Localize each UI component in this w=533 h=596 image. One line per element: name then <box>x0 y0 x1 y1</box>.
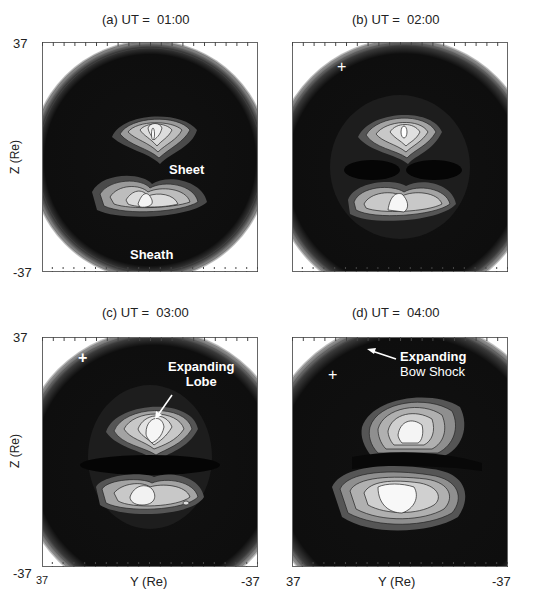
panel-c-ylabel: Z (Re) <box>8 434 22 468</box>
panel-a-title: (a) UT = 01:00 <box>102 12 190 27</box>
panel-c-xlabel: Y (Re) <box>130 574 167 589</box>
panel-c-ymax-label: 37 <box>13 330 27 345</box>
panel-c-title: (c) UT = 03:00 <box>102 305 189 320</box>
plus-marker: + <box>328 367 337 382</box>
sheath-annotation: Sheath <box>130 247 173 262</box>
panel-c-xleft-label: 37 <box>36 574 48 586</box>
expanding-bow-shock-line1: Expanding <box>400 349 466 364</box>
panel-d-plot: + Expanding Bow Shock <box>292 337 508 567</box>
panel-a-ymin-label: -37 <box>13 265 32 280</box>
expanding-bow-shock-line2: Bow Shock <box>400 364 466 379</box>
panel-d-title: (d) UT = 04:00 <box>352 305 440 320</box>
sheet-annotation: Sheet <box>169 162 204 177</box>
panel-b-contour <box>292 42 508 272</box>
panel-a-ylabel: Z (Re) <box>8 140 22 174</box>
panel-c-plot: + Expanding Lobe <box>42 337 258 567</box>
panel-a-plot: Sheet Sheath <box>42 42 258 272</box>
panel-d-xlabel: Y (Re) <box>378 574 415 589</box>
panel-a-contour <box>42 42 258 272</box>
expanding-lobe-line2: Lobe <box>168 374 234 389</box>
expanding-lobe-line1: Expanding <box>168 359 234 374</box>
panel-b-plot: + <box>292 42 508 272</box>
panel-d-xright-label: -37 <box>492 574 511 589</box>
panel-a-ymax-label: 37 <box>13 36 27 51</box>
panel-b-title: (b) UT = 02:00 <box>352 12 440 27</box>
panel-d-xleft-label: 37 <box>286 574 300 589</box>
plus-marker: + <box>337 59 346 74</box>
expanding-lobe-annotation: Expanding Lobe <box>168 359 234 389</box>
panel-c-xright-label: -37 <box>241 574 260 589</box>
panel-c-ymin-label: -37 <box>13 566 32 581</box>
expanding-bow-shock-annotation: Expanding Bow Shock <box>400 349 466 379</box>
plus-marker: + <box>78 350 87 365</box>
